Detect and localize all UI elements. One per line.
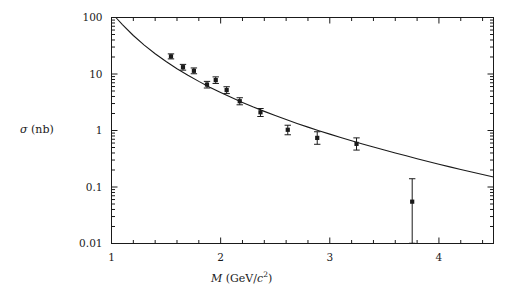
y-tick-label: 0.1 [86,181,103,193]
x-axis-ticks [112,18,483,244]
x-axis-unit-close: ) [268,272,272,285]
data-point-errorbar [168,54,174,59]
x-axis-label: M (GeV/c2) [211,270,272,285]
theory-curve [116,18,494,178]
y-tick-label: 0.01 [79,237,102,249]
data-point-errorbar [257,109,263,117]
data-point-errorbar [409,179,415,244]
x-tick-label: 1 [108,251,115,263]
plot-area: 1234 0.010.1110100 [0,0,511,297]
y-axis-label: σ (nb) [20,123,54,136]
y-axis-unit-text: (nb) [31,123,54,136]
y-axis-ticks [112,18,494,244]
x-tick-label: 4 [436,251,443,263]
y-axis-sigma-symbol: σ [20,123,28,136]
data-point-errorbar [191,68,197,74]
x-axis-unit-open: (GeV/ [226,272,257,285]
x-tick-label: 2 [217,251,224,263]
x-axis-m-symbol: M [211,272,222,285]
data-point-errorbar [285,125,291,135]
data-point-errorbar [237,98,243,105]
figure-canvas: 1234 0.010.1110100 σ (nb) M (GeV/c2) [0,0,511,297]
y-tick-label: 10 [89,68,102,80]
data-point-errorbar [180,64,186,70]
y-axis-tick-labels: 0.010.1110100 [79,11,102,249]
data-point-errorbar [314,132,320,145]
data-point-errorbar [223,87,229,94]
y-tick-label: 100 [82,11,102,23]
data-point-errorbar [213,77,219,84]
x-tick-label: 3 [326,251,333,263]
axes-frame [112,18,494,244]
data-point-errorbar [353,138,359,150]
y-tick-label: 1 [96,124,103,136]
x-axis-tick-labels: 1234 [108,251,442,263]
